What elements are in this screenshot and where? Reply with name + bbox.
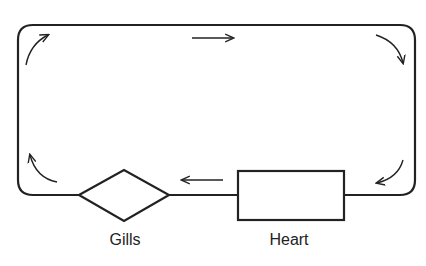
gills-label: Gills: [109, 231, 140, 249]
arrow-top-left-corner: [26, 35, 48, 65]
circulation-diagram: [0, 0, 426, 266]
circulation-loop-vessel: [18, 25, 415, 195]
heart-label: Heart: [269, 231, 308, 249]
flow-arrows: [26, 35, 403, 183]
arrow-bottom-right-corner: [377, 160, 403, 183]
heart-rectangle: [238, 171, 344, 220]
arrow-top-right-corner: [376, 35, 403, 63]
gills-diamond: [79, 170, 169, 221]
arrow-bottom-left-corner: [30, 155, 57, 182]
